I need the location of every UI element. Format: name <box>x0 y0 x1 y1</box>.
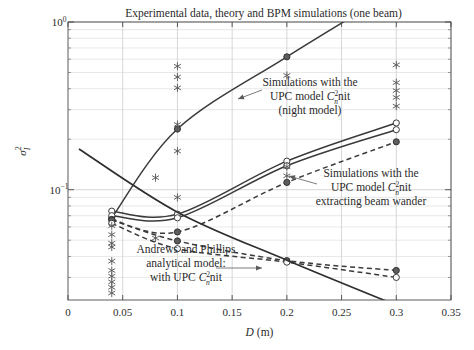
y-axis-title-superscript: 2 <box>14 146 23 150</box>
series-marker <box>393 120 399 126</box>
annotation-line-prefix: UPC model <box>270 90 327 102</box>
annotation-text: Andrews and Phillipsanalytical model:wit… <box>136 243 236 287</box>
series-marker <box>284 54 290 60</box>
annotation-line-suffix: nit <box>399 181 412 193</box>
series-marker <box>393 274 399 280</box>
series-marker <box>174 229 180 235</box>
x-tick-label: 0 <box>65 306 71 318</box>
x-tick-label: 0.2 <box>280 306 294 318</box>
y-tick-exponent: 0 <box>63 15 67 24</box>
series-marker <box>393 267 399 273</box>
annotation-line: Simulations with the <box>262 76 357 88</box>
annotation-text: Simulations with theUPC model C2nnitextr… <box>316 167 427 208</box>
annotation-line-prefix: with UPC <box>150 271 199 283</box>
x-axis-title-unit: (m) <box>257 326 274 339</box>
x-tick-label: 0.1 <box>171 306 185 318</box>
x-tick-label: 0.05 <box>113 306 133 318</box>
annotation-line-prefix: UPC model <box>331 181 388 193</box>
annotation-line: Simulations with the <box>323 167 418 179</box>
x-tick-label: 0.25 <box>332 306 352 318</box>
scientific-chart: 00.050.10.150.20.250.30.3510010−1Experim… <box>0 0 474 350</box>
series-marker <box>393 127 399 133</box>
annotation-line-suffix: nit <box>210 271 223 283</box>
series-marker <box>284 179 290 185</box>
series-marker <box>174 215 180 221</box>
x-tick-label: 0.35 <box>441 306 461 318</box>
series-marker <box>393 139 399 145</box>
x-axis-title-symbol: D <box>245 326 255 338</box>
annotation-line: extracting beam wander <box>316 195 427 208</box>
x-axis-title: D(m) <box>245 326 274 339</box>
chart-title: Experimental data, theory and BPM simula… <box>125 7 402 20</box>
annotation-line: analytical model: <box>146 257 226 270</box>
figure-container: 00.050.10.150.20.250.30.3510010−1Experim… <box>0 0 474 350</box>
y-tick-mantissa: 10 <box>50 184 62 196</box>
y-tick-exponent: −1 <box>61 182 69 191</box>
y-tick-mantissa: 10 <box>52 16 64 28</box>
y-axis-title-subscript: I <box>23 147 32 151</box>
annotation-line-suffix: nit <box>338 90 351 102</box>
x-tick-label: 0.3 <box>389 306 403 318</box>
x-tick-label: 0.15 <box>223 306 243 318</box>
annotation-line: Andrews and Phillips <box>136 243 236 256</box>
annotation-line: (night model) <box>279 104 342 117</box>
